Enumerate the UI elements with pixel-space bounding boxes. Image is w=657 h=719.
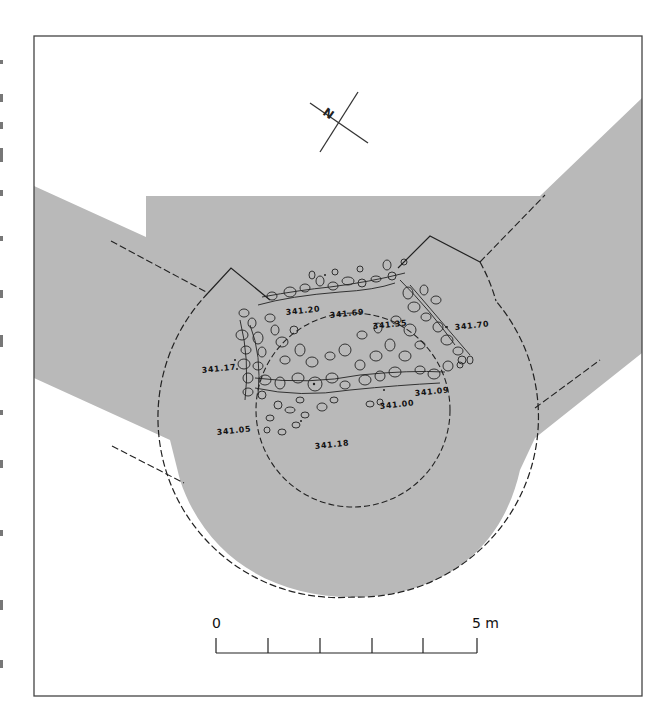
excavation-plan: N: [0, 0, 657, 719]
trench-fill: [34, 98, 642, 597]
scale-end-label: 5 m: [472, 615, 499, 631]
scale-bar: 0 5 m: [212, 615, 499, 653]
scale-start-label: 0: [212, 615, 221, 631]
shaded-area: [34, 98, 642, 597]
north-arrow-icon: N: [310, 92, 368, 152]
